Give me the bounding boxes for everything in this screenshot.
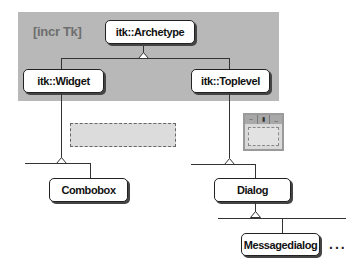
connector-dialog-up — [255, 164, 256, 178]
node-widget: itk::Widget — [23, 69, 104, 93]
close-icon: _ — [270, 115, 282, 124]
connector-toplevel-bus — [191, 164, 256, 165]
connector-toplevel-up — [229, 58, 230, 69]
maximize-icon: ▮ — [258, 115, 271, 124]
connector-widget-down — [61, 93, 62, 158]
window-body — [248, 127, 279, 146]
node-archetype: itk::Archetype — [105, 20, 195, 44]
connector-combobox-up — [90, 163, 91, 178]
connector-toplevel-down — [229, 93, 230, 158]
node-dialog: Dialog — [214, 178, 291, 202]
ellipsis: ... — [329, 236, 347, 252]
toplevel-window-icon: – ▮ _ — [243, 113, 284, 151]
inheritance-triangle-icon — [250, 211, 261, 218]
minimize-icon: – — [245, 115, 258, 124]
window-titlebar: – ▮ _ — [245, 115, 282, 124]
connector-messagedialog-up — [282, 218, 283, 233]
node-toplevel: itk::Toplevel — [191, 69, 270, 93]
node-messagedialog: Messagedialog — [241, 233, 320, 256]
node-combobox: Combobox — [49, 178, 128, 202]
connector-top-bus — [61, 58, 230, 59]
placeholder-widget-box — [70, 123, 176, 147]
connector-widget-bus — [25, 163, 91, 164]
connector-widget-up — [61, 58, 62, 69]
region-label: [incr Tk] — [33, 24, 82, 39]
